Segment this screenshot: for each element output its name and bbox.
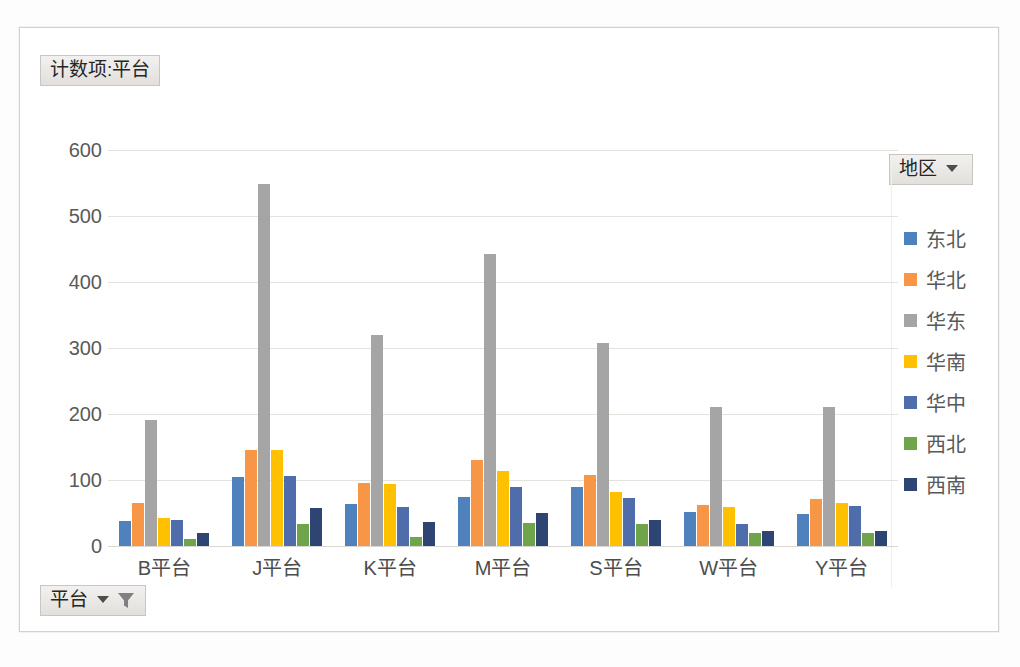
legend-item[interactable]: 华北 (904, 259, 1014, 300)
x-tick-label: S平台 (589, 552, 642, 581)
bar[interactable] (345, 504, 357, 546)
bar-group[interactable] (334, 150, 447, 546)
bar[interactable] (158, 518, 170, 546)
bar-group[interactable] (108, 150, 221, 546)
legend-item[interactable]: 西北 (904, 423, 1014, 464)
x-tick-label: J平台 (252, 552, 302, 581)
legend-swatch (904, 355, 917, 368)
bar[interactable] (358, 483, 370, 546)
bar[interactable] (510, 487, 522, 546)
bar-group[interactable] (221, 150, 334, 546)
bar[interactable] (736, 524, 748, 546)
value-field-label: 计数项:平台 (50, 59, 150, 81)
bar[interactable] (484, 254, 496, 546)
legend-label: 华中 (926, 388, 966, 417)
bar[interactable] (749, 533, 761, 546)
chevron-down-icon[interactable] (946, 165, 958, 172)
bar[interactable] (823, 407, 835, 546)
y-tick-label: 100 (46, 469, 102, 492)
bar[interactable] (636, 524, 648, 546)
bar[interactable] (523, 523, 535, 546)
bar[interactable] (597, 343, 609, 546)
bar[interactable] (797, 514, 809, 546)
bar-group[interactable] (785, 150, 898, 546)
legend-label: 华南 (926, 347, 966, 376)
bar-group[interactable] (447, 150, 560, 546)
legend-label: 西北 (926, 429, 966, 458)
legend-label: 西南 (926, 470, 966, 499)
legend-label: 东北 (926, 224, 966, 253)
bar[interactable] (697, 505, 709, 546)
chevron-down-icon[interactable] (97, 596, 109, 603)
bar[interactable] (571, 487, 583, 546)
legend-swatch (904, 232, 917, 245)
bar[interactable] (497, 471, 509, 546)
y-tick-label: 600 (46, 139, 102, 162)
bar[interactable] (649, 520, 661, 546)
y-tick-label: 0 (46, 535, 102, 558)
legend-swatch (904, 478, 917, 491)
bar[interactable] (371, 335, 383, 546)
y-tick-label: 300 (46, 337, 102, 360)
y-axis: 0100200300400500600 (44, 150, 102, 546)
x-axis-labels: B平台J平台K平台M平台S平台W平台Y平台 (108, 552, 898, 592)
legend-item[interactable]: 华南 (904, 341, 1014, 382)
bar[interactable] (310, 508, 322, 546)
bar[interactable] (284, 476, 296, 546)
bar[interactable] (623, 498, 635, 546)
bar[interactable] (536, 513, 548, 546)
plot-area (108, 150, 898, 546)
legend-swatch (904, 396, 917, 409)
legend-item[interactable]: 华东 (904, 300, 1014, 341)
bar[interactable] (810, 499, 822, 546)
x-tick-label: B平台 (138, 552, 191, 581)
bar[interactable] (410, 537, 422, 546)
legend-item[interactable]: 西南 (904, 464, 1014, 505)
bar[interactable] (132, 503, 144, 546)
bar[interactable] (171, 520, 183, 546)
bar[interactable] (471, 460, 483, 546)
y-tick-label: 400 (46, 271, 102, 294)
legend-label: 华东 (926, 306, 966, 335)
bar[interactable] (836, 503, 848, 546)
bar[interactable] (297, 524, 309, 546)
bar[interactable] (397, 507, 409, 546)
bar[interactable] (232, 477, 244, 546)
legend-swatch (904, 437, 917, 450)
bar[interactable] (197, 533, 209, 546)
bar-group[interactable] (672, 150, 785, 546)
bar[interactable] (723, 507, 735, 546)
bar[interactable] (423, 522, 435, 546)
bar-group[interactable] (559, 150, 672, 546)
pivot-chart-frame[interactable]: 计数项:平台 地区 平台 0100200300400500600 B平台J平台K… (19, 27, 999, 632)
legend-field-button[interactable]: 地区 (889, 154, 973, 185)
bar[interactable] (119, 521, 131, 546)
axis-field-label: 平台 (50, 589, 88, 611)
bar[interactable] (271, 450, 283, 546)
bar[interactable] (258, 184, 270, 546)
bar[interactable] (849, 506, 861, 546)
bar[interactable] (145, 420, 157, 546)
bar[interactable] (862, 533, 874, 546)
value-field-button[interactable]: 计数项:平台 (40, 55, 160, 86)
bar[interactable] (684, 512, 696, 546)
bar[interactable] (610, 492, 622, 546)
x-axis-line (108, 546, 898, 547)
legend-swatch (904, 314, 917, 327)
bar[interactable] (458, 497, 470, 547)
legend-label: 华北 (926, 265, 966, 294)
legend-item[interactable]: 华中 (904, 382, 1014, 423)
x-tick-label: W平台 (699, 552, 758, 581)
bar[interactable] (710, 407, 722, 546)
pivot-chart-page: 计数项:平台 地区 平台 0100200300400500600 B平台J平台K… (0, 0, 1020, 667)
legend-item[interactable]: 东北 (904, 218, 1014, 259)
bar[interactable] (245, 450, 257, 546)
y-tick-label: 200 (46, 403, 102, 426)
bar[interactable] (875, 531, 887, 546)
bar[interactable] (184, 539, 196, 546)
legend-field-label: 地区 (899, 158, 937, 180)
bar[interactable] (762, 531, 774, 546)
bar[interactable] (384, 484, 396, 546)
bar[interactable] (584, 475, 596, 546)
funnel-filter-icon[interactable] (116, 590, 136, 610)
